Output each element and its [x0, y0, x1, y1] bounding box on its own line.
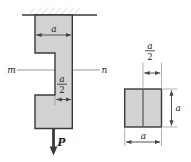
dim-cs-height: a — [163, 89, 181, 127]
dim-cs-height-label: a — [176, 103, 181, 113]
load-arrow: P — [50, 129, 67, 156]
cs-frac-numerator: a — [147, 41, 152, 51]
cs-frac-denominator: 2 — [147, 52, 152, 62]
ceiling-hatching — [29, 8, 81, 15]
notch-frac-numerator: a — [59, 74, 64, 84]
dim-cs-width: a — [125, 129, 162, 147]
load-label: P — [57, 136, 67, 148]
cs-top-fraction: a 2 — [145, 41, 155, 62]
section-label-n: n — [102, 65, 108, 75]
diagram-canvas: m n a a 2 P — [0, 0, 191, 162]
notch-frac-denominator: 2 — [59, 85, 64, 95]
dim-cs-half-width — [143, 63, 162, 88]
cross-section-figure: a 2 a — [125, 41, 181, 147]
dim-cs-width-label: a — [141, 131, 146, 141]
stepped-bar-figure: m n a a 2 P — [7, 8, 107, 156]
mechanics-diagram: m n a a 2 P — [0, 0, 191, 162]
section-label-m: m — [7, 65, 16, 75]
dim-top-width-label: a — [51, 24, 56, 34]
